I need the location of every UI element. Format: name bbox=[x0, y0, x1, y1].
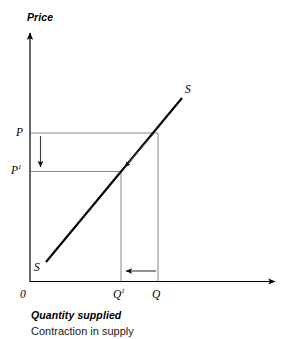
movement-along-curve-arrow bbox=[125, 135, 153, 168]
quantity-high-label: Q bbox=[152, 289, 160, 301]
price-low-label-sup: 1 bbox=[18, 163, 22, 171]
x-axis-title: Quantity supplied bbox=[31, 310, 121, 321]
price-low-label: P1 bbox=[11, 165, 22, 177]
y-axis-title: Price bbox=[27, 12, 53, 23]
quantity-low-label-sup: 1 bbox=[121, 287, 125, 295]
figure-caption: Contraction in supply bbox=[31, 326, 134, 337]
supply-curve-label-bottom: S bbox=[34, 262, 40, 274]
origin-label: 0 bbox=[20, 289, 26, 301]
price-low-label-base: P bbox=[11, 164, 18, 176]
price-high-label: P bbox=[16, 127, 23, 139]
quantity-low-label: Q1 bbox=[113, 289, 125, 301]
plot-area bbox=[0, 0, 290, 339]
supply-curve-label-top: S bbox=[185, 84, 191, 96]
supply-contraction-figure: Price S S P P1 0 Q1 Q Quantity supplied … bbox=[0, 0, 290, 339]
supply-curve bbox=[46, 98, 182, 262]
